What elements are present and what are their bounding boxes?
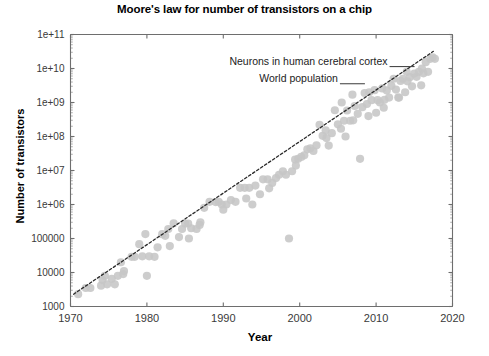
data-point [341, 132, 349, 140]
data-point [285, 234, 293, 242]
y-tick-label: 100000 [31, 233, 65, 244]
data-point [175, 233, 183, 241]
plot-area: Neurons in human cerebral cortexWorld po… [0, 0, 489, 356]
data-point [331, 106, 339, 114]
x-tick-label: 1980 [135, 312, 159, 324]
data-point [348, 91, 356, 99]
annotations: Neurons in human cerebral cortexWorld po… [229, 55, 414, 84]
x-tick-labels: 197019801990200020102020 [58, 312, 464, 324]
data-point [417, 81, 425, 89]
y-tick-label: 1e+11 [37, 29, 65, 40]
data-point [337, 125, 345, 133]
data-point [372, 109, 380, 117]
chart-annotation-label: Neurons in human cerebral cortex [229, 55, 388, 67]
data-point [385, 93, 393, 101]
chart-annotation-label: World population [259, 72, 338, 84]
x-tick-label: 2010 [364, 312, 388, 324]
data-point [111, 280, 119, 288]
data-point [166, 242, 174, 250]
data-point [292, 161, 300, 169]
data-point [431, 55, 439, 63]
data-point [150, 253, 158, 261]
data-point [143, 272, 151, 280]
x-tick-label: 2020 [440, 312, 464, 324]
data-point [248, 200, 256, 208]
data-point [131, 253, 139, 261]
data-point [251, 181, 259, 189]
x-tick-label: 1990 [211, 312, 235, 324]
y-tick-label: 1e+07 [36, 165, 65, 176]
data-point [338, 98, 346, 106]
data-point [154, 243, 162, 251]
moores-law-trendline [74, 51, 434, 294]
y-tick-label: 1e+06 [36, 199, 65, 210]
y-tick-label: 1e+08 [36, 131, 65, 142]
data-point [325, 142, 333, 150]
data-point [315, 121, 323, 129]
data-point [256, 190, 264, 198]
x-tick-label: 2000 [287, 312, 311, 324]
data-point [364, 112, 372, 120]
chart-figure: Moore's law for number of transistors on… [0, 0, 489, 356]
data-point [135, 240, 143, 248]
y-tick-label: 10000 [37, 267, 65, 278]
x-tick-label: 1970 [58, 312, 82, 324]
y-tick-labels: 1000100001000001e+061e+071e+081e+091e+10… [31, 29, 65, 312]
data-point [231, 198, 239, 206]
data-point [312, 141, 320, 149]
data-point [196, 218, 204, 226]
data-point [322, 134, 330, 142]
data-point [120, 267, 128, 275]
data-point [242, 194, 250, 202]
data-point [356, 155, 364, 163]
data-point [418, 64, 426, 72]
data-point [408, 82, 416, 90]
y-tick-label: 1000 [42, 301, 65, 312]
data-point [141, 230, 149, 238]
data-point [392, 85, 400, 93]
y-tick-label: 1e+09 [36, 97, 65, 108]
scatter-points [74, 53, 439, 298]
data-point [219, 206, 227, 214]
data-point [380, 104, 388, 112]
data-point [185, 234, 193, 242]
data-point [349, 116, 357, 124]
data-point [265, 184, 273, 192]
y-tick-label: 1e+10 [36, 63, 65, 74]
data-point [395, 93, 403, 101]
trend-line [74, 51, 434, 294]
